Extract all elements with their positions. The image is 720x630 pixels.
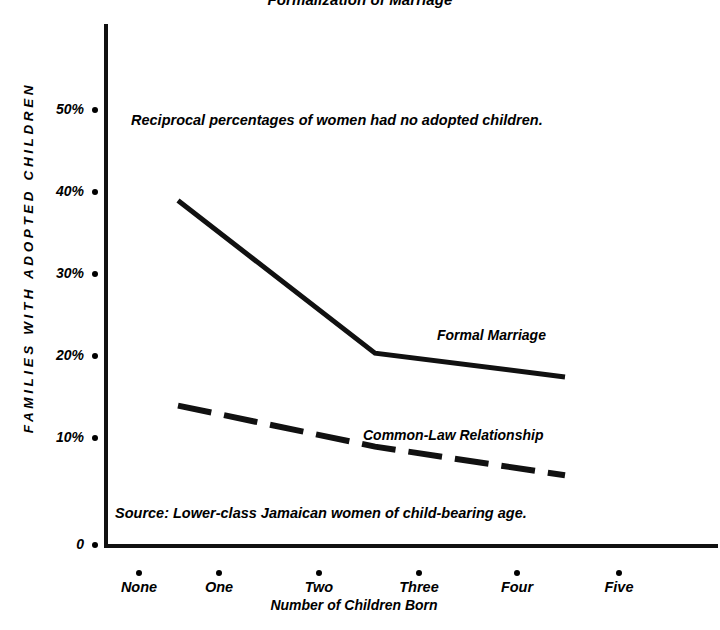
x-axis-line <box>104 544 718 548</box>
x-tick-label-three: Three <box>379 579 459 595</box>
x-tick-label-four: Four <box>477 579 557 595</box>
y-axis-line <box>104 24 108 548</box>
y-tick-label-20: 20% <box>28 347 84 363</box>
y-axis-title: FAMILIES WITH ADOPTED CHILDREN <box>21 78 36 438</box>
y-tick-dot-50 <box>92 107 98 113</box>
chart-page: Formalization of Marriage FAMILIES WITH … <box>0 0 720 630</box>
y-tick-dot-20 <box>92 353 98 359</box>
x-tick-dot-none <box>136 570 142 576</box>
series-label-formal-marriage: Formal Marriage <box>437 327 546 343</box>
x-tick-dot-five <box>616 570 622 576</box>
x-tick-dot-three <box>416 570 422 576</box>
source-note: Source: Lower-class Jamaican women of ch… <box>115 505 527 521</box>
line-formal-marriage <box>178 201 565 377</box>
plot-lines <box>0 0 720 630</box>
x-tick-dot-one <box>216 570 222 576</box>
x-tick-label-one: One <box>179 579 259 595</box>
y-tick-dot-10 <box>92 435 98 441</box>
y-tick-label-30: 30% <box>28 265 84 281</box>
y-tick-label-50: 50% <box>28 101 84 117</box>
x-tick-label-two: Two <box>279 579 359 595</box>
x-tick-label-none: None <box>99 579 179 595</box>
x-tick-label-five: Five <box>579 579 659 595</box>
y-tick-dot-40 <box>92 189 98 195</box>
y-tick-label-40: 40% <box>28 183 84 199</box>
y-tick-label-10: 10% <box>28 429 84 445</box>
chart-title: Formalization of Marriage <box>0 0 720 8</box>
y-tick-dot-30 <box>92 271 98 277</box>
x-tick-dot-four <box>514 570 520 576</box>
x-axis-title: Number of Children Born <box>104 597 604 613</box>
y-tick-label-0: 0 <box>28 536 84 552</box>
reciprocal-note: Reciprocal percentages of women had no a… <box>131 112 543 128</box>
x-tick-dot-two <box>316 570 322 576</box>
y-tick-dot-0 <box>92 542 98 548</box>
series-label-common-law: Common-Law Relationship <box>363 427 543 443</box>
